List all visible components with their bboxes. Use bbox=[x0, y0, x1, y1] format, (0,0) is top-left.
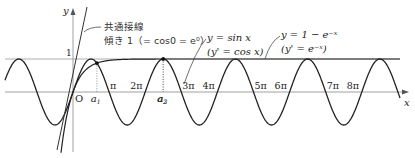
sin-derivative-label: (y' = cos x) bbox=[207, 46, 264, 57]
pi-tick-label: 6π bbox=[275, 80, 287, 91]
tangent-label-2: 傾き 1（= cos0 = e⁰） bbox=[104, 35, 210, 46]
a-labels: a1a2a3 bbox=[91, 93, 168, 105]
a-label: a1 bbox=[91, 93, 101, 105]
y-axis-arrow-icon bbox=[71, 8, 76, 15]
pi-tick-label: 2π bbox=[130, 80, 142, 91]
exp-derivative-label: (y' = e⁻ˣ) bbox=[281, 43, 327, 54]
sin-label: y = sin x bbox=[206, 32, 251, 43]
x-axis-arrow-icon bbox=[402, 90, 409, 95]
intersection-dot bbox=[162, 57, 166, 61]
pi-tick-label: 8π bbox=[347, 80, 359, 91]
y-one-label: 1 bbox=[66, 48, 72, 58]
diagram-canvas: y x O 1 π2π3π4π5π6π7π8π a1a2a3 共通接線 傾き 1… bbox=[0, 0, 415, 158]
x-axis-label: x bbox=[404, 97, 410, 108]
pi-tick-label: 7π bbox=[327, 80, 339, 91]
exp-leader-line bbox=[265, 36, 280, 59]
exp-label: y = 1 − e⁻ˣ bbox=[280, 29, 338, 40]
origin-label: O bbox=[75, 93, 83, 104]
y-axis-label: y bbox=[62, 5, 69, 16]
intersection-dot bbox=[95, 61, 99, 65]
pi-tick-label: 4π bbox=[202, 80, 214, 91]
a-label: a3 bbox=[158, 93, 168, 105]
tangent-label-1: 共通接線 bbox=[104, 21, 144, 32]
pi-tick-label: π bbox=[110, 80, 116, 91]
common-tangent-line bbox=[57, 7, 87, 150]
pi-tick-label: 5π bbox=[255, 80, 267, 91]
tangent-leader-line bbox=[84, 27, 101, 32]
pi-tick-label: 3π bbox=[182, 80, 194, 91]
exp-curve bbox=[61, 59, 400, 153]
